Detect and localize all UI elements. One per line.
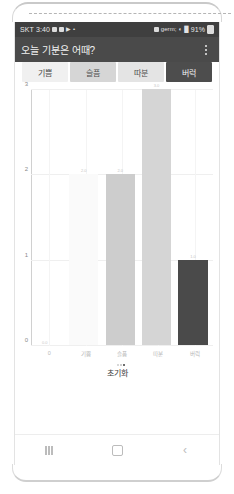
y-axis-line [31,90,32,346]
x-tick-label: 따분 [153,350,163,358]
recents-bar [51,446,53,455]
y-tick-label: 3 [25,81,28,87]
phone-device-frame: SKT 3:40 ▶ • germ; ◐ █ 91% 오늘 기분은 어때? [0,0,234,494]
marker-dot [123,364,125,366]
carrier-label: SKT [20,22,34,37]
battery-percent-label: 91% [191,22,205,37]
tab-label: 버럭 [182,67,196,78]
tab-label: 기쁨 [38,67,52,78]
x-tick-label: 버럭 [190,350,200,358]
phone-screen: SKT 3:40 ▶ • germ; ◐ █ 91% 오늘 기분은 어때? [14,22,220,465]
bar-value-label: 2.0 [81,168,87,173]
back-button[interactable]: ‹ [168,439,202,461]
more-icon: • [73,22,75,37]
x-tick-label: 슬픔 [117,350,127,358]
message-icon [52,27,57,32]
tab-boredom[interactable]: 따분 [118,62,164,82]
marker-dot [120,364,122,366]
chart-caption: 초기화 [15,367,219,378]
clock-label: 3:40 [36,22,50,37]
tab-joy[interactable]: 기쁨 [22,62,68,82]
axis-marker-cluster [117,364,125,366]
tab-bar: 기쁨 슬픔 따분 버럭 [15,62,219,82]
signal-icon: █ [184,22,188,37]
overflow-dot [205,45,207,47]
device-bezel-bottom [12,464,222,482]
device-speaker-grille [29,9,231,14]
home-button[interactable] [100,439,134,461]
origin-value-label: 0.0 [42,340,48,345]
x-tick-label: 기쁨 [81,350,91,358]
tab-sadness[interactable]: 슬픔 [70,62,116,82]
bar-sadness[interactable]: 2.0 [106,174,135,345]
recents-button[interactable] [32,439,66,461]
x-tick-label: 0 [48,350,51,356]
chart-plot-area: 0 1 2 3 0.0 2.0 2.0 3.0 1.0 [31,90,213,346]
battery-icon [207,25,214,34]
gridline-x0 [49,90,50,346]
recents-icon [45,446,53,455]
photo-icon [59,27,64,32]
overflow-menu-icon[interactable] [199,41,213,59]
recents-bar [48,446,50,455]
bar-value-label: 3.0 [154,83,160,88]
tab-anger[interactable]: 버럭 [166,62,212,82]
nfc-icon [154,27,159,32]
mute-icon: germ; [161,22,177,37]
y-tick-label: 0 [25,337,28,343]
status-bar-left: SKT 3:40 ▶ • [20,22,75,37]
home-icon [112,445,123,456]
android-navigation-bar: ‹ [15,434,219,465]
overflow-dot [205,49,207,51]
bar-joy[interactable]: 2.0 [69,174,98,345]
send-icon: ▶ [66,22,71,37]
bar-value-label: 2.0 [117,168,123,173]
marker-dot [117,364,119,366]
bar-anger[interactable]: 1.0 [178,260,207,345]
device-bezel-top [12,2,222,22]
tab-label: 따분 [134,67,148,78]
y-tick-label: 1 [25,252,28,258]
bar-boredom[interactable]: 3.0 [142,89,171,345]
back-icon: ‹ [183,444,187,456]
page-title: 오늘 기분은 어때? [21,42,199,57]
bar-value-label: 1.0 [190,254,196,259]
recents-bar [45,446,47,455]
y-tick-label: 2 [25,166,28,172]
status-bar: SKT 3:40 ▶ • germ; ◐ █ 91% [15,22,219,37]
wifi-icon: ◐ [179,22,183,37]
status-bar-right: germ; ◐ █ 91% [154,22,214,37]
app-bar: 오늘 기분은 어때? [15,37,219,62]
overflow-dot [205,53,207,55]
tab-label: 슬픔 [86,67,100,78]
mood-bar-chart: 0 1 2 3 0.0 2.0 2.0 3.0 1.0 [15,82,219,382]
